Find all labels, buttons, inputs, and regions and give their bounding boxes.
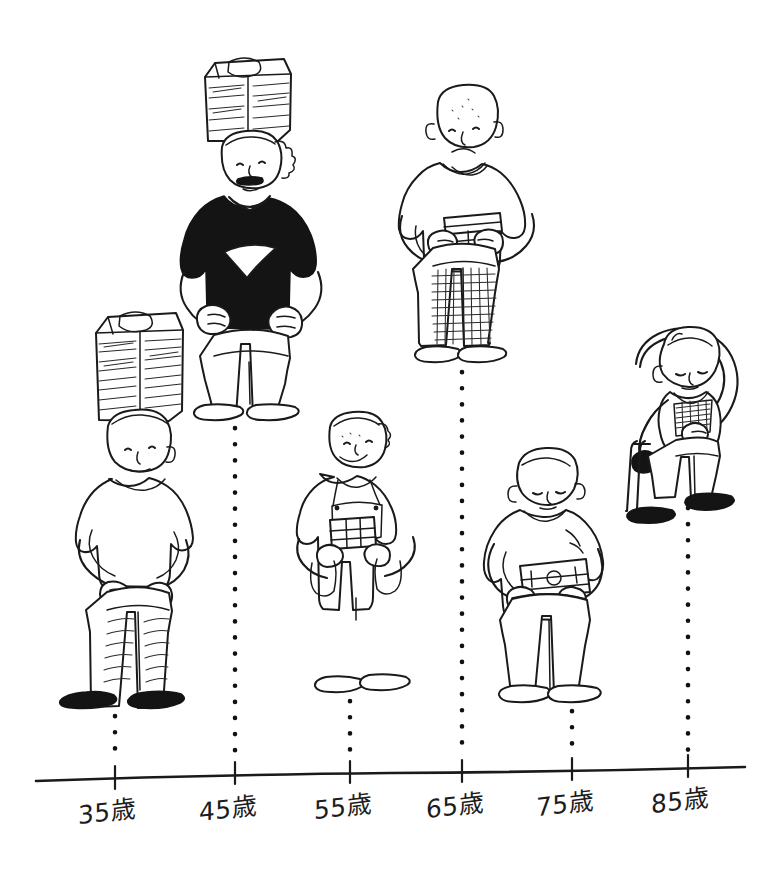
trousers-75 <box>500 594 590 693</box>
money-bundle-55 <box>330 517 376 549</box>
x-axis <box>36 755 745 789</box>
figure-55 <box>297 412 415 692</box>
shirt-35 <box>76 478 193 587</box>
right-shoe-85 <box>685 493 734 510</box>
tick-label-65: 65歳 <box>426 782 484 825</box>
head-65 <box>437 85 498 148</box>
tick-label-45: 45歳 <box>199 785 257 828</box>
head-35 <box>107 409 171 471</box>
trousers-45 <box>200 330 290 416</box>
right-shoe-75 <box>548 685 601 702</box>
right-shoe-35 <box>128 691 185 708</box>
figure-75 <box>484 448 603 702</box>
left-shoe-55 <box>315 676 363 692</box>
tick-label-75: 75歳 <box>536 780 594 823</box>
chart-canvas <box>0 0 776 880</box>
strap-button-right-55 <box>374 506 379 511</box>
figure-65 <box>399 85 534 362</box>
right-shoe-45 <box>247 404 299 420</box>
right-shoe-55 <box>360 674 410 690</box>
money-stack-35 <box>96 312 183 421</box>
left-shoe-85 <box>627 507 675 523</box>
tick-label-55: 55歳 <box>314 783 372 826</box>
pictorial-chart: 35歳 45歳 55歳 65歳 75歳 85歳 <box>0 0 776 880</box>
figure-85 <box>626 327 738 523</box>
tick-label-85: 85歳 <box>651 777 709 820</box>
axis-baseline <box>36 767 745 781</box>
strap-button-left-55 <box>335 506 340 511</box>
money-stack-45 <box>205 58 291 141</box>
right-hand-55 <box>364 544 390 566</box>
legs-85 <box>648 437 720 499</box>
left-shoe-65 <box>415 346 461 362</box>
right-shoe-65 <box>458 346 506 362</box>
moustache-45 <box>237 177 263 185</box>
frown-mouth-65 <box>452 149 475 153</box>
head-55 <box>329 412 386 468</box>
tick-label-35: 35歳 <box>78 788 136 831</box>
figure-45 <box>180 58 321 420</box>
left-shoe-75 <box>499 685 550 702</box>
left-hand-55 <box>317 545 343 567</box>
left-shoe-45 <box>194 404 243 420</box>
left-hand-45 <box>197 305 231 334</box>
figure-35 <box>60 312 193 709</box>
left-shoe-35 <box>60 691 117 708</box>
